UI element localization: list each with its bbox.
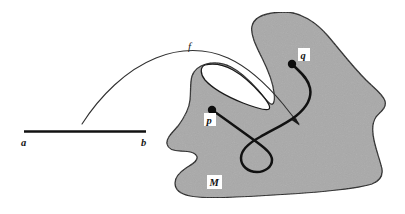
point-q-label-group: q bbox=[298, 48, 310, 61]
point-p-label: p bbox=[206, 115, 212, 126]
manifold-label: M bbox=[209, 177, 220, 188]
point-p-label-group: p bbox=[204, 113, 216, 126]
point-p-dot bbox=[208, 106, 216, 114]
manifold-region-group bbox=[167, 12, 385, 198]
interval-label-b: b bbox=[141, 137, 146, 148]
point-q-label: q bbox=[301, 50, 306, 61]
manifold-label-group: M bbox=[207, 175, 222, 189]
manifold-figure: a b f p q M bbox=[0, 0, 405, 214]
figure-canvas: a b f p q M bbox=[0, 0, 405, 214]
point-q-dot bbox=[288, 60, 296, 68]
manifold-region-shape bbox=[167, 12, 385, 198]
interval-label-a: a bbox=[21, 137, 26, 148]
interval-group: a b bbox=[21, 132, 146, 149]
